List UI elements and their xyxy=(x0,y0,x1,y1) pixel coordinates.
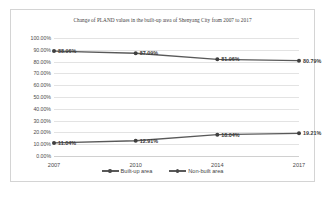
data-point-marker xyxy=(215,57,219,61)
data-point-label: 81.96% xyxy=(221,56,239,62)
legend-label: Non-built area xyxy=(188,168,223,174)
gridline xyxy=(54,156,299,157)
y-axis-tick-label: 0.00% xyxy=(36,153,51,159)
legend-marker-icon xyxy=(102,168,119,174)
y-axis-tick-label: 40.00% xyxy=(33,106,51,112)
data-point-label: 12.91% xyxy=(140,138,158,144)
data-point-label: 88.96% xyxy=(58,48,76,54)
legend-item-built-up[interactable]: Built-up area xyxy=(102,168,153,174)
y-axis-tick-label: 70.00% xyxy=(33,70,51,76)
data-point-marker xyxy=(52,141,56,145)
series-line xyxy=(54,133,299,143)
data-point-marker xyxy=(134,139,138,143)
data-point-marker xyxy=(215,133,219,137)
data-point-label: 18.04% xyxy=(221,132,239,138)
data-point-label: 19.21% xyxy=(303,130,321,136)
plot-area: 100.00%90.00%80.00%70.00%60.00%50.00%40.… xyxy=(54,38,299,156)
y-axis-tick-label: 90.00% xyxy=(33,47,51,53)
data-point-marker xyxy=(134,51,138,55)
chart-title: Change of PLAND values in the built-up a… xyxy=(11,17,314,23)
y-axis-tick-label: 100.00% xyxy=(31,35,51,41)
series-lines xyxy=(54,38,299,156)
data-point-label: 87.09% xyxy=(140,50,158,56)
y-axis-tick-label: 20.00% xyxy=(33,129,51,135)
y-axis-tick-label: 10.00% xyxy=(33,141,51,147)
y-axis-tick-label: 50.00% xyxy=(33,94,51,100)
chart-legend: Built-up area Non-built area xyxy=(11,168,314,174)
chart-container: Change of PLAND values in the built-up a… xyxy=(10,9,315,182)
data-point-label: 11.04% xyxy=(58,140,76,146)
data-point-marker xyxy=(297,59,301,63)
data-point-marker xyxy=(297,131,301,135)
legend-item-non-built[interactable]: Non-built area xyxy=(169,168,223,174)
y-axis-tick-label: 60.00% xyxy=(33,82,51,88)
legend-label: Built-up area xyxy=(121,168,153,174)
series-line xyxy=(54,51,299,61)
y-axis-tick-label: 80.00% xyxy=(33,59,51,65)
y-axis-tick-label: 30.00% xyxy=(33,118,51,124)
data-point-label: 80.79% xyxy=(303,58,321,64)
legend-marker-icon xyxy=(169,168,186,174)
data-point-marker xyxy=(52,49,56,53)
